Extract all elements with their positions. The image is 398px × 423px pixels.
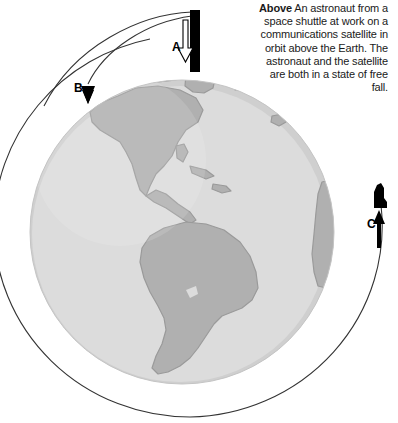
land-arctic-islands <box>142 62 184 82</box>
caption-body: An astronaut from a space shuttle at wor… <box>261 2 388 93</box>
astronaut-free-fall-figure: A B C Above An astronaut from a space sh… <box>0 0 398 423</box>
arrow-b-head <box>81 86 95 104</box>
caption-lead: Above <box>259 2 292 14</box>
satellite-c <box>374 183 387 208</box>
marker-a-group <box>178 10 200 72</box>
marker-label-c: C <box>367 218 376 230</box>
marker-b-group <box>81 84 95 104</box>
marker-c-group <box>373 183 387 248</box>
earth-highlight <box>34 74 206 246</box>
shuttle-body-a <box>190 10 200 72</box>
land-northern-europe <box>290 96 344 120</box>
earth-globe-group <box>30 62 397 384</box>
figure-caption: Above An astronaut from a space shuttle … <box>252 2 388 94</box>
marker-label-a: A <box>172 41 181 53</box>
marker-label-b: B <box>74 82 83 94</box>
land-europe-africa <box>312 178 362 288</box>
